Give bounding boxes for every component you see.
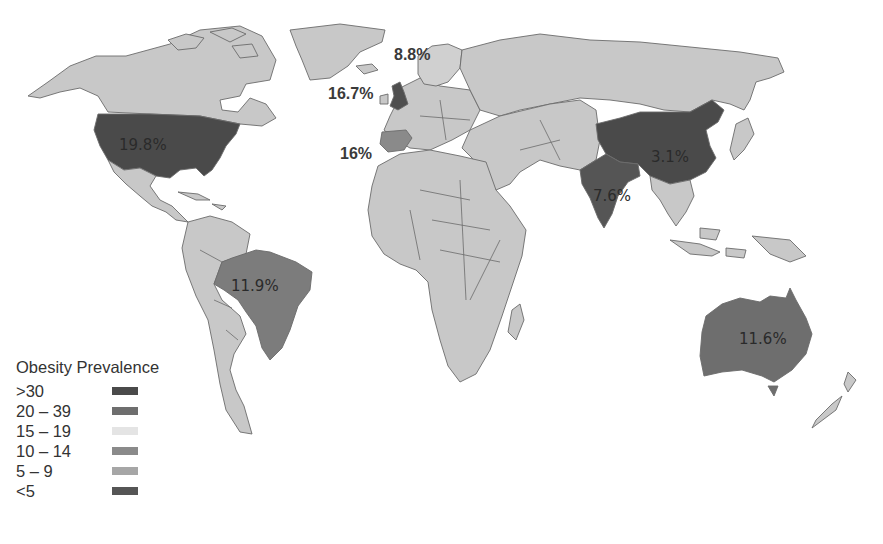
legend-entry: >30: [14, 381, 204, 401]
label-united-kingdom: 16.7%: [328, 86, 373, 102]
legend-swatch: [112, 387, 138, 395]
region-southeast-asia: [650, 176, 694, 226]
label-india: 7.6%: [593, 189, 631, 204]
region-ireland: [380, 94, 388, 104]
legend-swatch: [112, 407, 138, 415]
legend-title: Obesity Prevalence: [16, 357, 204, 377]
region-canada-alaska: [28, 26, 276, 126]
label-united-states: 19.8%: [119, 138, 167, 153]
legend-entry-label: <5: [14, 482, 112, 501]
legend-entry: 10 – 14: [14, 441, 204, 461]
region-indonesia: [670, 228, 806, 262]
label-australia: 11.6%: [739, 332, 787, 347]
label-brazil: 11.9%: [231, 279, 279, 294]
legend-entry-label: 20 – 39: [14, 402, 112, 421]
label-spain: 16%: [340, 146, 372, 162]
legend-entry: <5: [14, 481, 204, 501]
legend-entry: 5 – 9: [14, 461, 204, 481]
legend-swatch: [112, 447, 138, 455]
legend-entry-label: 15 – 19: [14, 422, 112, 441]
legend-entry-label: 10 – 14: [14, 442, 112, 461]
legend-swatch: [112, 467, 138, 475]
legend-entry-label: 5 – 9: [14, 462, 112, 481]
map-legend: Obesity Prevalence >30 20 – 39 15 – 19 1…: [14, 357, 204, 501]
legend-entry-label: >30: [14, 382, 112, 401]
legend-swatch: [112, 487, 138, 495]
region-tasmania: [768, 386, 778, 396]
region-iceland: [356, 64, 378, 74]
legend-entry: 15 – 19: [14, 421, 204, 441]
region-japan: [730, 118, 754, 160]
legend-entry: 20 – 39: [14, 401, 204, 421]
legend-swatch: [112, 427, 138, 435]
region-madagascar: [508, 304, 524, 340]
region-caribbean: [178, 192, 226, 210]
label-scandinavia: 8.8%: [394, 47, 430, 63]
label-china: 3.1%: [651, 150, 689, 165]
world-obesity-map: 19.8% 11.9% 16.7% 8.8% 16% 7.6% 3.1% 11.…: [0, 0, 883, 544]
region-russia: [460, 34, 784, 116]
region-spain: [380, 130, 412, 152]
region-new-zealand: [812, 372, 856, 428]
